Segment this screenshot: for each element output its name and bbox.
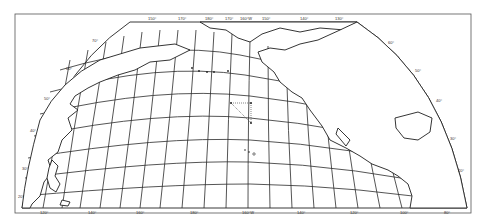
svg-text:40°: 40° xyxy=(436,98,442,103)
svg-text:30°: 30° xyxy=(22,166,28,171)
hawaiian-islands xyxy=(244,149,255,155)
svg-text:150°: 150° xyxy=(262,16,271,21)
svg-text:50°: 50° xyxy=(44,96,50,101)
svg-text:150°: 150° xyxy=(148,16,157,21)
svg-text:180°: 180° xyxy=(190,210,199,215)
svg-text:50°: 50° xyxy=(415,68,421,73)
svg-text:170°: 170° xyxy=(225,16,234,21)
svg-text:40°: 40° xyxy=(30,128,36,133)
svg-text:30°: 30° xyxy=(450,136,456,141)
svg-text:180°: 180° xyxy=(205,16,214,21)
svg-text:160°: 160° xyxy=(136,210,145,215)
svg-text:20°: 20° xyxy=(458,168,464,173)
top-longitude-labels: 150° 170° 180° 170° 160°W 150° 140° 130° xyxy=(148,16,344,21)
svg-text:120°: 120° xyxy=(40,210,49,215)
svg-text:130°: 130° xyxy=(335,16,344,21)
svg-text:100°: 100° xyxy=(400,210,409,215)
svg-text:70°: 70° xyxy=(92,38,98,43)
svg-text:170°: 170° xyxy=(178,16,187,21)
svg-text:60°: 60° xyxy=(66,66,72,71)
svg-text:160°W: 160°W xyxy=(242,210,254,215)
svg-text:140°: 140° xyxy=(297,210,306,215)
north-america-coast xyxy=(258,22,467,208)
svg-text:60°: 60° xyxy=(388,40,394,45)
svg-text:140°: 140° xyxy=(300,16,309,21)
svg-text:20°: 20° xyxy=(18,194,24,199)
bottom-longitude-labels: 120° 140° 160° 180° 160°W 140° 120° 100°… xyxy=(40,210,450,215)
svg-text:140°: 140° xyxy=(88,210,97,215)
japan-islands xyxy=(47,160,70,206)
svg-text:80°: 80° xyxy=(444,210,450,215)
svg-text:160°W: 160°W xyxy=(240,16,252,21)
svg-text:120°: 120° xyxy=(350,210,359,215)
map-canvas: 150° 170° 180° 170° 160°W 150° 140° 130°… xyxy=(0,0,487,224)
